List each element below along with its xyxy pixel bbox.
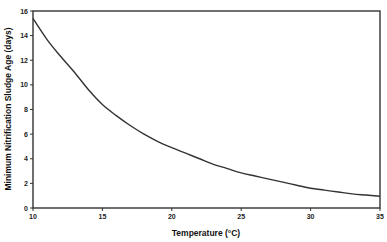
x-tick-label: 25 [237,213,245,220]
y-tick-label: 14 [20,32,28,39]
x-axis-title: Temperature (°C) [172,228,241,238]
y-axis-ticks: 0246810121416 [20,8,33,212]
y-tick-label: 4 [24,155,28,162]
chart: 0246810121416 101520253035 Temperature (… [0,0,387,242]
plot-frame [33,11,380,208]
x-tick-label: 10 [29,213,37,220]
y-tick-label: 16 [20,8,28,15]
plot-border [33,11,380,208]
x-tick-label: 20 [168,213,176,220]
x-tick-label: 30 [307,213,315,220]
x-tick-label: 15 [99,213,107,220]
y-tick-label: 8 [24,106,28,113]
data-line [33,18,380,196]
x-tick-label: 35 [376,213,384,220]
y-axis-title: Minimum Nitrification Sludge Age (days) [3,27,13,190]
y-tick-label: 0 [24,205,28,212]
y-tick-label: 2 [24,180,28,187]
y-tick-label: 10 [20,81,28,88]
y-tick-label: 6 [24,131,28,138]
y-tick-label: 12 [20,57,28,64]
x-axis-ticks: 101520253035 [29,208,384,220]
